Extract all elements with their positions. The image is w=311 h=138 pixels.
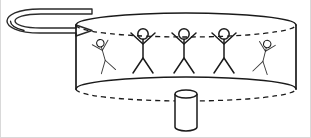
bottom-rim-back-arc — [76, 77, 296, 89]
rider-3 — [172, 29, 196, 73]
rider-1-head — [96, 39, 105, 48]
riders-group — [91, 29, 276, 75]
rider-5-legs — [253, 60, 270, 75]
rider-4-legs — [214, 58, 234, 73]
rider-1-legs — [98, 58, 115, 73]
rider-4-head — [219, 29, 229, 39]
rider-4 — [212, 29, 236, 73]
rider-2-head — [138, 29, 148, 39]
center-post-body — [175, 94, 197, 131]
rider-2-legs — [133, 58, 153, 73]
rider-2 — [131, 29, 155, 73]
rider-1 — [91, 37, 116, 73]
rotating-drum-diagram: Rotating drum with riders — [0, 0, 311, 138]
rider-5-head — [263, 40, 272, 49]
center-post-cap — [175, 90, 197, 98]
top-rim-back-arc — [76, 13, 296, 25]
rider-3-legs — [174, 58, 194, 73]
center-post — [175, 90, 197, 131]
diagram-svg — [0, 0, 311, 138]
rider-5 — [252, 39, 276, 75]
